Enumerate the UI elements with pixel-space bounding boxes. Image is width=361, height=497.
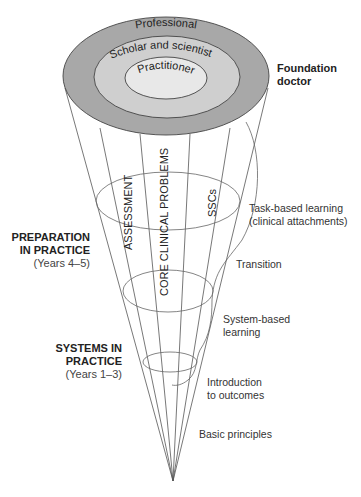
phase-label-years: (Years 1–3) xyxy=(0,368,122,381)
stage-label-line2: to outcomes xyxy=(207,389,264,402)
stage-label-line2: learning xyxy=(223,326,290,339)
phase-label-line1: PREPARATION xyxy=(0,231,90,244)
phase-label-years: (Years 4–5) xyxy=(0,257,90,270)
theme-sscs: SSCs xyxy=(206,188,218,217)
theme-core-clinical-problems: CORE CLINICAL PROBLEMS xyxy=(158,148,170,296)
stage-label-transition: Transition xyxy=(236,258,282,271)
foundation-doctor-line1: Foundation xyxy=(277,62,337,75)
stage-label-line1: Transition xyxy=(236,258,282,271)
top-rings xyxy=(63,17,269,135)
stage-label-basic-principles: Basic principles xyxy=(199,428,272,441)
spiral-path xyxy=(172,122,258,385)
stage-label-line1: System-based xyxy=(223,313,290,326)
phase-label-preparation: PREPARATION IN PRACTICE (Years 4–5) xyxy=(0,231,90,270)
foundation-doctor-line2: doctor xyxy=(277,75,337,88)
stage-label-line1: Introduction xyxy=(207,376,264,389)
stage-label-system-based: System-based learning xyxy=(223,313,290,339)
phase-label-systems: SYSTEMS IN PRACTICE (Years 1–3) xyxy=(0,342,122,381)
stage-label-line2: (clinical attachments) xyxy=(249,215,348,228)
phase-label-line2: PRACTICE xyxy=(0,355,122,368)
foundation-doctor-label: Foundation doctor xyxy=(277,62,337,88)
phase-label-line1: SYSTEMS IN xyxy=(0,342,122,355)
theme-assessment: ASSESSMENT xyxy=(122,175,134,250)
stage-label-task-based: Task-based learning (clinical attachment… xyxy=(249,202,348,228)
stage-label-line1: Basic principles xyxy=(199,428,272,441)
phase-label-line2: IN PRACTICE xyxy=(0,244,90,257)
stage-label-line1: Task-based learning xyxy=(249,202,348,215)
stage-label-introduction: Introduction to outcomes xyxy=(207,376,264,402)
